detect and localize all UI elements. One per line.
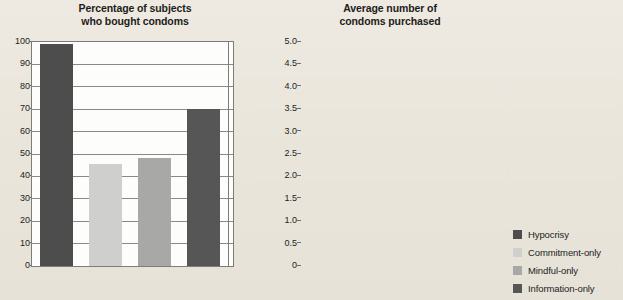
y-tick-label: 4.0 xyxy=(284,81,297,91)
y-tick-label: 1.0 xyxy=(284,215,297,225)
y-tick-label: 60 xyxy=(20,126,30,136)
bar-commitment-only xyxy=(89,164,122,266)
y-tick-label: 40 xyxy=(20,170,30,180)
legend-item[interactable]: Hypocrisy xyxy=(513,225,623,243)
y-axis-average: 00.51.01.52.02.53.03.54.04.55.0 xyxy=(270,41,297,267)
chart-title-line-1: Percentage of subjects xyxy=(0,2,270,15)
y-tick-mark xyxy=(297,175,301,176)
legend-item-label: Mindful-only xyxy=(528,265,578,276)
y-tick-mark xyxy=(297,265,301,266)
y-tick-mark xyxy=(297,130,301,131)
chart-panel-average: Average number of condoms purchased xyxy=(270,0,510,300)
y-tick-mark xyxy=(297,153,301,154)
chart-title-percentage: Percentage of subjects who bought condom… xyxy=(0,2,270,28)
y-tick-mark xyxy=(297,108,301,109)
y-tick-label: 70 xyxy=(20,103,30,113)
chart-title-line-2: condoms purchased xyxy=(270,15,510,28)
y-tick-label: 50 xyxy=(20,148,30,158)
y-tick-label: 2.0 xyxy=(284,170,297,180)
chart-title-line-1: Average number of xyxy=(270,2,510,15)
y-tick-label: 90 xyxy=(20,58,30,68)
y-tick-label: 0.5 xyxy=(284,238,297,248)
legend-swatch-icon xyxy=(513,230,522,239)
legend-item-label: Commitment-only xyxy=(528,247,601,258)
chart-title-line-2: who bought condoms xyxy=(0,15,270,28)
legend-item-label: Hypocrisy xyxy=(528,229,569,240)
y-tick-label: 10 xyxy=(20,238,30,248)
y-tick-label: 3.5 xyxy=(284,103,297,113)
y-tick-mark xyxy=(297,63,301,64)
y-tick-label: 5.0 xyxy=(284,36,297,46)
figure-canvas: Percentage of subjects who bought condom… xyxy=(0,0,623,300)
plot-area-average xyxy=(31,41,229,267)
y-axis-percentage: 0102030405060708090100 xyxy=(0,41,30,267)
legend-swatch-icon xyxy=(513,284,522,293)
legend-item[interactable]: Mindful-only xyxy=(513,261,623,279)
y-tick-label: 3.0 xyxy=(284,126,297,136)
y-tick-label: 2.5 xyxy=(284,148,297,158)
legend-item[interactable]: Information-only xyxy=(513,279,623,297)
legend-item-label: Information-only xyxy=(528,283,595,294)
chart-legend: HypocrisyCommitment-onlyMindful-onlyInfo… xyxy=(513,225,623,297)
legend-swatch-icon xyxy=(513,266,522,275)
y-tick-label: 80 xyxy=(20,81,30,91)
y-tick-mark xyxy=(297,41,301,42)
chart-title-average: Average number of condoms purchased xyxy=(270,2,510,28)
y-tick-mark xyxy=(297,242,301,243)
y-tick-mark xyxy=(297,85,301,86)
y-tick-label: 1.5 xyxy=(284,193,297,203)
bar-information-only xyxy=(187,109,220,266)
y-tick-label: 30 xyxy=(20,193,30,203)
legend-swatch-icon xyxy=(513,248,522,257)
y-tick-label: 20 xyxy=(20,215,30,225)
y-tick-mark xyxy=(297,197,301,198)
y-tick-label: 100 xyxy=(15,36,30,46)
legend-item[interactable]: Commitment-only xyxy=(513,243,623,261)
bar-mindful-only xyxy=(138,158,171,266)
bar-hypocrisy xyxy=(40,44,73,266)
y-tick-label: 4.5 xyxy=(284,58,297,68)
y-tick-mark xyxy=(297,220,301,221)
